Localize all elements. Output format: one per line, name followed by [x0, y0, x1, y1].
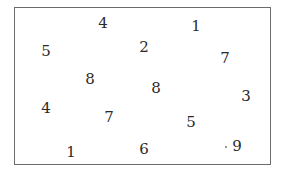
- number-label: 4: [41, 101, 51, 116]
- number-label: 7: [104, 110, 114, 125]
- number-label: 7: [220, 51, 230, 66]
- number-label: 6: [139, 142, 149, 157]
- number-label: 8: [85, 72, 95, 87]
- number-label: 9: [232, 139, 242, 154]
- dot-mark: [225, 146, 227, 148]
- number-label: 5: [41, 44, 51, 59]
- number-label: 5: [186, 115, 196, 130]
- number-label: 4: [98, 16, 108, 31]
- number-label: 1: [191, 19, 201, 34]
- number-label: 3: [241, 89, 251, 104]
- number-label: 1: [66, 145, 76, 160]
- number-label: 8: [151, 81, 161, 96]
- number-label: 2: [139, 40, 149, 55]
